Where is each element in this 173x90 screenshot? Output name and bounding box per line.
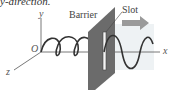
y-axis-label: y [39, 8, 43, 19]
z-axis [14, 52, 41, 70]
origin-label: O [31, 43, 38, 54]
slot-label: Slot [122, 4, 138, 15]
x-axis-label: x [163, 45, 167, 56]
barrier-label: Barrier [69, 9, 97, 20]
z-axis-label: z [6, 66, 10, 77]
circular-wave [41, 37, 92, 56]
